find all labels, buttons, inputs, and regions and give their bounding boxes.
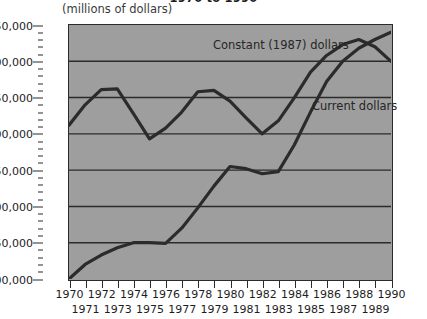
x-tick — [327, 281, 328, 288]
x-tick-label: 1984 — [281, 288, 309, 301]
y-tick-minor — [38, 54, 43, 55]
y-tick-major — [33, 170, 43, 171]
x-tick-label: 1987 — [329, 303, 357, 316]
y-tick-minor — [38, 90, 43, 91]
y-tick-minor — [38, 272, 43, 273]
x-tick — [311, 281, 312, 288]
x-tick — [295, 281, 296, 288]
x-tick-label: 1973 — [104, 303, 132, 316]
y-tick-minor — [38, 199, 43, 200]
x-tick — [392, 281, 393, 288]
plot-area — [68, 24, 393, 281]
x-tick-label: 1978 — [184, 288, 212, 301]
y-tick-minor — [38, 76, 43, 77]
y-tick-minor — [38, 148, 43, 149]
y-tick-minor — [38, 141, 43, 142]
x-tick — [150, 281, 151, 288]
y-tick-minor — [38, 250, 43, 251]
x-tick — [198, 281, 199, 288]
x-tick-label: 1977 — [168, 303, 196, 316]
series-line-current-dollars — [69, 32, 391, 279]
y-tick-minor — [38, 214, 43, 215]
x-tick-label: 1985 — [297, 303, 325, 316]
x-tick-label: 1974 — [120, 288, 148, 301]
y-axis: $100,000$150,000$200,000$250,000$300,000… — [0, 24, 68, 281]
y-tick-minor — [38, 163, 43, 164]
y-tick-label: $200,000 — [0, 200, 33, 213]
y-tick-minor — [38, 40, 43, 41]
x-tick-label: 1980 — [217, 288, 245, 301]
chart-units-subtitle: (millions of dollars) — [62, 2, 172, 16]
y-tick-label: $250,000 — [0, 164, 33, 177]
x-tick — [359, 281, 360, 288]
series-line-constant-dollars — [69, 40, 391, 139]
y-tick-label: $400,000 — [0, 55, 33, 68]
y-tick-major — [33, 61, 43, 62]
x-tick-label: 1971 — [72, 303, 100, 316]
x-tick — [214, 281, 215, 288]
y-tick-minor — [38, 156, 43, 157]
x-tick — [70, 281, 71, 288]
y-tick-major — [33, 98, 43, 99]
y-tick-minor — [38, 69, 43, 70]
y-tick-minor — [38, 127, 43, 128]
y-tick-minor — [38, 221, 43, 222]
y-tick-major — [33, 243, 43, 244]
y-tick-major — [33, 206, 43, 207]
x-tick — [134, 281, 135, 288]
x-tick-label: 1970 — [56, 288, 84, 301]
x-tick-label: 1988 — [345, 288, 373, 301]
x-tick-label: 1975 — [136, 303, 164, 316]
y-tick-minor — [38, 47, 43, 48]
y-tick-major — [33, 279, 43, 280]
y-tick-minor — [38, 228, 43, 229]
x-tick — [247, 281, 248, 288]
y-tick-label: $300,000 — [0, 128, 33, 141]
y-tick-minor — [38, 112, 43, 113]
x-tick-label: 1986 — [313, 288, 341, 301]
y-tick-minor — [38, 235, 43, 236]
x-tick — [343, 281, 344, 288]
y-tick-minor — [38, 192, 43, 193]
x-tick — [102, 281, 103, 288]
x-tick-label: 1972 — [88, 288, 116, 301]
series-lines — [69, 32, 391, 279]
x-tick-label: 1979 — [200, 303, 228, 316]
y-tick-minor — [38, 32, 43, 33]
x-tick — [263, 281, 264, 288]
x-tick — [118, 281, 119, 288]
chart-figure: 1970 to 1990 (millions of dollars) $100,… — [0, 0, 427, 319]
x-tick — [231, 281, 232, 288]
y-tick-label: $350,000 — [0, 92, 33, 105]
x-axis: 1970197219741976197819801982198419861988… — [68, 281, 393, 319]
y-tick-minor — [38, 185, 43, 186]
y-tick-minor — [38, 264, 43, 265]
y-tick-minor — [38, 257, 43, 258]
x-tick — [279, 281, 280, 288]
x-tick-label: 1982 — [249, 288, 277, 301]
x-tick-label: 1989 — [361, 303, 389, 316]
x-tick-label: 1976 — [152, 288, 180, 301]
x-tick — [166, 281, 167, 288]
y-tick-minor — [38, 105, 43, 106]
y-tick-major — [33, 25, 43, 26]
x-tick-label: 1990 — [378, 288, 406, 301]
x-tick-label: 1981 — [233, 303, 261, 316]
series-label-constant-dollars: Constant (1987) dollars — [213, 38, 349, 52]
y-tick-label: $150,000 — [0, 237, 33, 250]
plot-canvas — [69, 25, 391, 279]
x-tick — [86, 281, 87, 288]
x-tick — [375, 281, 376, 288]
series-label-current-dollars: Current dollars — [312, 99, 397, 113]
x-tick — [182, 281, 183, 288]
y-tick-label: $450,000 — [0, 19, 33, 32]
y-tick-label: $100,000 — [0, 273, 33, 286]
x-tick-label: 1983 — [265, 303, 293, 316]
y-tick-minor — [38, 83, 43, 84]
y-tick-minor — [38, 177, 43, 178]
y-tick-minor — [38, 119, 43, 120]
y-tick-major — [33, 134, 43, 135]
